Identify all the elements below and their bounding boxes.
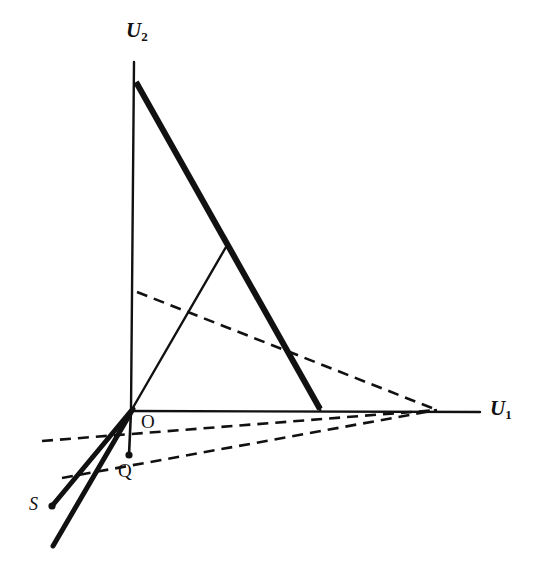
dashed-origin-line (42, 410, 437, 441)
u1-axis-label: U1 (490, 396, 512, 421)
u1-axis-label-subscript: 1 (505, 407, 512, 422)
origin-ray-line (131, 247, 226, 411)
u1-axis-label-text: U (490, 396, 505, 420)
point-s-marker (48, 502, 55, 509)
diagram-svg (0, 0, 539, 587)
point-q-label: Q (118, 460, 132, 482)
u2-axis-label-text: U (126, 18, 141, 42)
point-s-label: S (29, 494, 38, 515)
u2-axis-label: U2 (126, 18, 148, 43)
frontier-line (136, 82, 320, 409)
ray-to-s-line (52, 411, 131, 506)
figure-canvas: U2 U1 O Q S (0, 0, 539, 587)
u2-axis-label-subscript: 2 (141, 29, 148, 44)
origin-label: O (141, 411, 155, 433)
u2-axis-line (131, 62, 134, 411)
point-q-marker (125, 451, 132, 458)
